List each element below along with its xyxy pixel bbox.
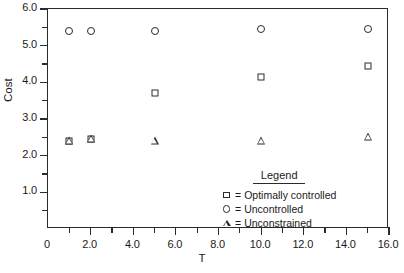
legend-triangle-icon <box>222 217 235 230</box>
data-point-circle <box>364 25 372 33</box>
chart-figure: Cost T 1.02.03.04.05.06.0 02.04.06.08.01… <box>0 0 404 273</box>
data-point-circle <box>65 27 73 35</box>
data-point-triangle <box>257 137 265 145</box>
y-axis-tick-label: 2.0 <box>10 148 37 160</box>
legend-title: Legend <box>253 169 305 184</box>
data-point-triangle <box>65 137 73 145</box>
x-axis-title: T <box>0 252 404 264</box>
data-point-square <box>258 73 265 80</box>
x-axis-tick <box>388 227 389 235</box>
y-axis-tick-label: 3.0 <box>10 111 37 123</box>
data-point-circle <box>87 27 95 35</box>
x-axis-minor-tick <box>197 227 198 233</box>
x-axis-minor-tick <box>154 227 155 233</box>
y-axis-minor-tick <box>42 210 48 211</box>
x-axis-tick-label: 8.0 <box>198 238 238 250</box>
y-axis-tick-label: 4.0 <box>10 74 37 86</box>
y-axis-tick-label: 6.0 <box>10 1 37 13</box>
data-point-triangle <box>151 137 159 145</box>
legend-square-icon <box>222 189 235 202</box>
x-axis-tick-label: 4.0 <box>112 238 152 250</box>
data-point-triangle <box>364 133 372 141</box>
y-axis-tick <box>40 82 48 83</box>
legend-equals-sign: = <box>235 217 241 230</box>
x-axis-minor-tick <box>367 227 368 233</box>
data-point-circle <box>257 25 265 33</box>
y-axis-minor-tick <box>42 27 48 28</box>
data-point-square <box>151 90 158 97</box>
y-axis-minor-tick <box>42 100 48 101</box>
x-axis-tick-label: 12.0 <box>283 238 323 250</box>
x-axis-tick <box>133 227 134 235</box>
y-axis-tick <box>40 8 48 9</box>
legend-circle-icon <box>222 203 235 216</box>
x-axis-minor-tick <box>69 227 70 233</box>
legend-entry-label: Uncontrolled <box>244 203 303 216</box>
chart-legend: Legend =Optimally controlled=Uncontrolle… <box>222 169 336 231</box>
legend-entry-label: Unconstrained <box>244 217 312 230</box>
x-axis-tick-label: 10.0 <box>240 238 280 250</box>
y-axis-tick-label: 1.0 <box>10 184 37 196</box>
legend-equals-sign: = <box>235 189 241 202</box>
legend-entry-list: =Optimally controlled=Uncontrolled=Uncon… <box>222 189 336 230</box>
y-axis-tick <box>40 118 48 119</box>
plot-area: Legend =Optimally controlled=Uncontrolle… <box>47 8 388 228</box>
data-point-triangle <box>87 135 95 143</box>
legend-entry: =Uncontrolled <box>222 203 336 216</box>
x-axis-tick-label: 2.0 <box>70 238 110 250</box>
x-axis-tick-label: 16.0 <box>368 238 404 250</box>
y-axis-minor-tick <box>42 173 48 174</box>
y-axis-minor-tick <box>42 137 48 138</box>
x-axis-tick <box>346 227 347 235</box>
y-axis-tick-label: 5.0 <box>10 38 37 50</box>
x-axis-tick-label: 0 <box>27 238 67 250</box>
y-axis-tick <box>40 192 48 193</box>
x-axis-tick <box>175 227 176 235</box>
x-axis-tick <box>218 227 219 235</box>
y-axis-tick <box>40 45 48 46</box>
data-point-circle <box>151 27 159 35</box>
x-axis-minor-tick <box>111 227 112 233</box>
x-axis-tick-label: 14.0 <box>325 238 365 250</box>
y-axis-tick <box>40 155 48 156</box>
data-point-square <box>364 62 371 69</box>
legend-entry: =Optimally controlled <box>222 189 336 202</box>
legend-entry-label: Optimally controlled <box>244 189 336 202</box>
x-axis-tick <box>90 227 91 235</box>
legend-entry: =Unconstrained <box>222 217 336 230</box>
legend-equals-sign: = <box>235 203 241 216</box>
y-axis-minor-tick <box>42 63 48 64</box>
x-axis-tick-label: 6.0 <box>155 238 195 250</box>
